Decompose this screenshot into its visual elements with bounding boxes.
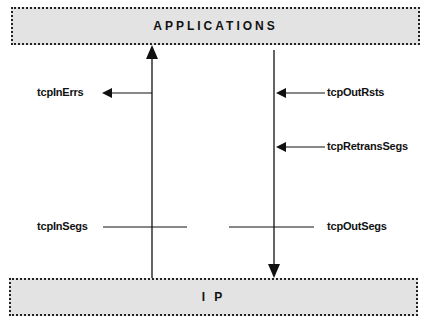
in-errors-label: tcpInErrs [37,86,84,98]
retrans-segs-arrowhead-icon [276,142,286,152]
in-segs-label: tcpInSegs [37,220,88,232]
out-resets-label: tcpOutRsts [327,86,384,98]
in-errors-arrowhead-icon [102,88,112,98]
out-segs-label: tcpOutSegs [327,220,387,232]
out-resets-arrowhead-icon [276,88,286,98]
outbound-arrowhead-icon [268,264,280,278]
flow-diagram-lines [0,0,427,324]
retrans-segs-label: tcpRetransSegs [327,140,408,152]
inbound-arrowhead-icon [146,45,158,59]
